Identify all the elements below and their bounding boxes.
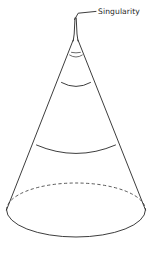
cone-right-edge (78, 40, 146, 210)
cross-section-neck-tick (72, 52, 81, 53)
apex-spike-right-edge (76, 18, 78, 41)
singularity-cone-diagram: Singularity (0, 0, 153, 260)
cross-section-arc-lower (37, 145, 116, 154)
cross-section-arc-upper (70, 55, 83, 57)
singularity-label: Singularity (98, 7, 140, 16)
figure-canvas: Singularity (0, 0, 153, 260)
apex-spike-left-edge (73, 18, 75, 41)
base-ellipse-front-arc (7, 210, 146, 237)
singularity-leader-line (75, 11, 96, 19)
base-ellipse-back-arc-dashed (7, 183, 146, 210)
cross-section-arc-middle (62, 83, 91, 87)
cone-left-edge (7, 40, 74, 210)
